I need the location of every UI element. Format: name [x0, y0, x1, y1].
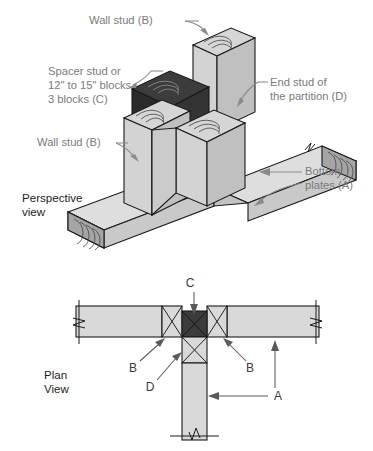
label-wall-stud-b-top-text: Wall stud (B)	[89, 14, 153, 26]
end-stud-d-front	[176, 128, 207, 206]
label-bottom-plates-line2: plates (A)	[305, 179, 353, 191]
wall-stud-b-left-front	[124, 118, 152, 215]
plan-partition-plate	[182, 363, 207, 440]
framing-detail-illustration: Wall stud (B) Spacer stud or 12" to 15" …	[0, 0, 373, 451]
label-spacer-line1: Spacer stud or	[48, 65, 121, 77]
label-end-stud-line1: End stud of	[270, 76, 327, 88]
label-bottom-plates-line1: Bottom	[305, 165, 340, 177]
figure-canvas: Wall stud (B) Spacer stud or 12" to 15" …	[0, 0, 373, 451]
plan-wall-left	[76, 306, 162, 337]
label-wall-stud-b-left-text: Wall stud (B)	[37, 136, 101, 148]
plan-callout-a-text: A	[274, 389, 282, 403]
plan-callout-b-right-text: B	[246, 361, 254, 375]
plan-wall-right	[227, 306, 319, 337]
plan-view-label-line2: View	[44, 382, 70, 395]
perspective-view-label-line2: view	[22, 205, 46, 218]
plan-callout-c-text: C	[186, 276, 195, 290]
plan-callout-b-left-text: B	[129, 361, 137, 375]
label-spacer-line3: 3 blocks (C)	[48, 93, 108, 105]
plan-view-label-line1: Plan	[44, 368, 67, 381]
label-end-stud-line2: the partition (D)	[270, 90, 347, 102]
label-spacer-line2: 12" to 15" blocks	[48, 79, 132, 91]
end-stud-partition-d	[176, 110, 245, 206]
plan-callout-d-text: D	[146, 380, 155, 394]
perspective-view-label-line1: Perspective	[22, 191, 83, 204]
